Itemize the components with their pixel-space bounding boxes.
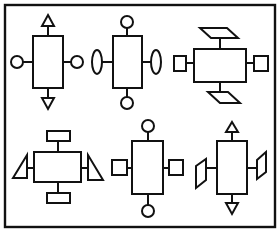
figure-6-left-parallelogram-icon <box>196 159 206 188</box>
figure-4-bottom-small-rect-icon <box>47 193 70 203</box>
figure-3 <box>174 28 268 103</box>
figure-2-right-ellipse-icon <box>151 50 161 74</box>
figure-1-top-triangle-icon <box>42 15 54 26</box>
figure-1 <box>11 15 83 109</box>
figure-3-left-square-icon <box>174 56 186 71</box>
figure-5-right-square-icon <box>169 160 183 175</box>
figure-4-center-rect <box>34 152 81 182</box>
figure-6-center-rect <box>217 141 247 194</box>
figure-3-right-square-icon <box>254 56 268 71</box>
figure-2-bottom-circle-icon <box>121 97 133 109</box>
figure-6-right-parallelogram-icon <box>257 152 266 179</box>
figure-2-top-circle-icon <box>121 16 133 28</box>
figure-5-center-rect <box>132 141 163 194</box>
figure-1-left-circle-icon <box>11 56 23 68</box>
figure-4-left-triangle-icon <box>13 155 27 178</box>
figure-6-top-triangle-icon <box>226 122 238 132</box>
figure-1-center-rect <box>33 36 63 88</box>
figure-1-bottom-triangle-icon <box>42 98 54 109</box>
figure-5-left-square-icon <box>112 160 127 175</box>
figure-3-bottom-parallelogram-icon <box>208 92 240 103</box>
figure-4-top-small-rect-icon <box>47 131 70 141</box>
figure-6 <box>196 122 266 214</box>
figure-5 <box>112 120 183 217</box>
figure-4-right-triangle-icon <box>88 155 103 180</box>
figure-2-center-rect <box>113 36 142 88</box>
diagram-canvas <box>0 0 279 232</box>
figure-4 <box>13 131 103 203</box>
diagram-svg <box>0 0 279 232</box>
figure-6-bottom-triangle-icon <box>226 203 238 214</box>
figure-3-center-rect <box>194 49 246 82</box>
figure-5-top-circle-icon <box>142 120 154 132</box>
figure-1-right-circle-icon <box>71 56 83 68</box>
figure-5-bottom-circle-icon <box>142 205 154 217</box>
figure-2 <box>92 16 161 109</box>
figure-3-top-parallelogram-icon <box>200 28 238 38</box>
figure-2-left-ellipse-icon <box>92 50 102 74</box>
